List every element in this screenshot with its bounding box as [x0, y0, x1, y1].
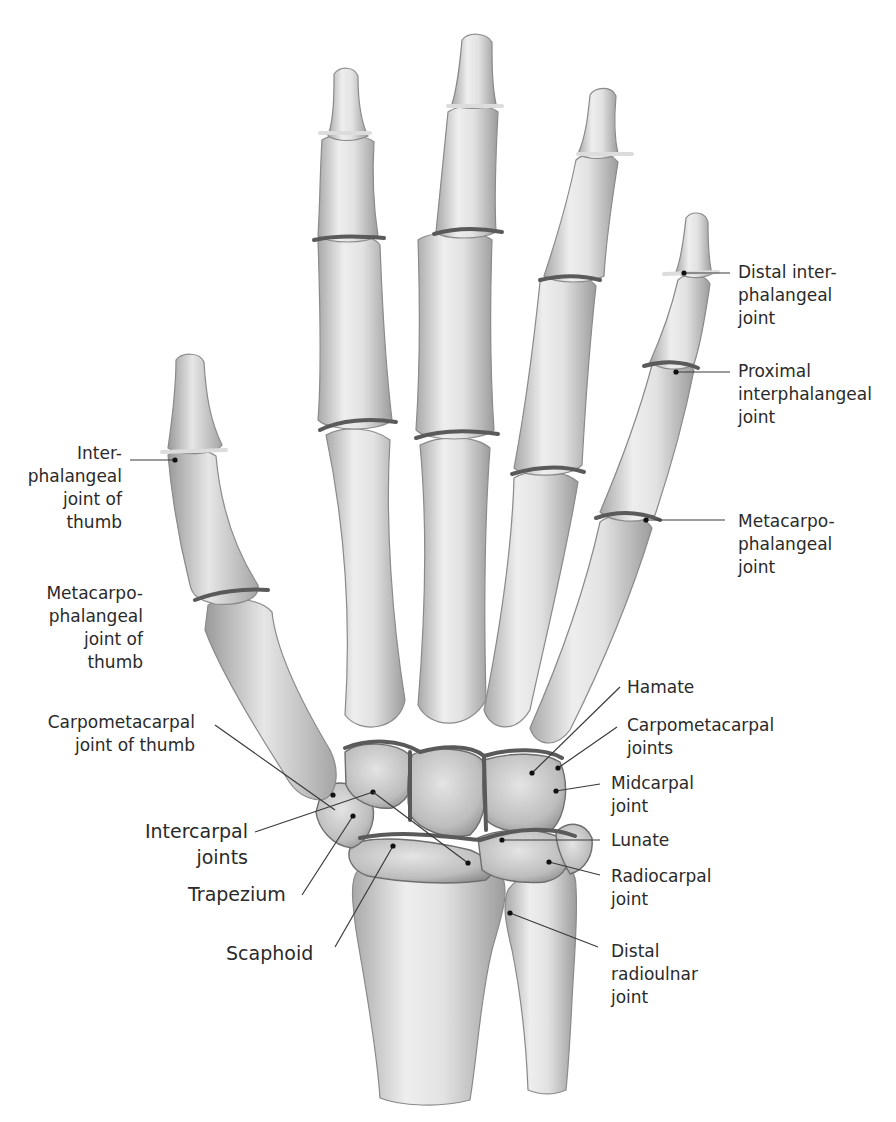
- little-proximal-phalanx: [600, 361, 694, 521]
- label-scaphoid: Scaphoid: [226, 940, 313, 966]
- hamate: [483, 754, 566, 832]
- middle-metacarpal: [418, 438, 490, 723]
- index-metacarpal: [326, 429, 405, 727]
- radius-bone: [353, 860, 506, 1105]
- little-distal-phalanx: [676, 213, 712, 278]
- label-radiocarpal-joint: Radiocarpal joint: [611, 865, 711, 911]
- thumb-distal-phalanx: [168, 354, 222, 453]
- label-midcarpal-joint: Midcarpal joint: [611, 772, 694, 818]
- ulna-bone: [505, 869, 577, 1094]
- index-proximal-phalanx: [318, 235, 392, 429]
- thumb-metacarpal: [205, 599, 336, 800]
- label-interphalangeal-joint-of-thumb: Inter- phalangeal joint of thumb: [20, 442, 122, 534]
- scaphoid: [349, 839, 492, 883]
- ring-middle-phalanx: [544, 154, 618, 282]
- thumb-proximal-phalanx: [168, 450, 258, 604]
- label-intercarpal-joints: Intercarpal joints: [60, 818, 248, 870]
- index-middle-phalanx: [318, 136, 378, 242]
- label-hamate: Hamate: [627, 676, 694, 699]
- little-middle-phalanx: [650, 275, 710, 369]
- label-distal-interphalangeal-joint: Distal inter- phalangeal joint: [738, 261, 837, 330]
- middle-proximal-phalanx: [416, 233, 494, 440]
- ring-proximal-phalanx: [514, 276, 596, 476]
- label-lunate: Lunate: [611, 829, 669, 852]
- label-distal-radioulnar-joint: Distal radioulnar joint: [611, 940, 698, 1009]
- label-trapezium: Trapezium: [188, 881, 286, 907]
- capitate: [408, 749, 486, 836]
- index-distal-phalanx: [328, 68, 368, 140]
- middle-finger-bones: [416, 34, 502, 723]
- label-metacarpophalangeal-joint: Metacarpo- phalangeal joint: [738, 510, 835, 579]
- label-carpometacarpal-joints: Carpometacarpal joints: [627, 714, 774, 760]
- ring-distal-phalanx: [578, 88, 618, 158]
- label-metacarpophalangeal-joint-of-thumb: Metacarpo- phalangeal joint of thumb: [20, 582, 143, 674]
- label-carpometacarpal-joint-of-thumb: Carpometacarpal joint of thumb: [20, 711, 195, 757]
- middle-middle-phalanx: [436, 106, 498, 238]
- label-proximal-interphalangeal-joint: Proximal interphalangeal joint: [738, 360, 872, 429]
- index-finger-bones: [314, 68, 405, 727]
- middle-distal-phalanx: [452, 34, 496, 108]
